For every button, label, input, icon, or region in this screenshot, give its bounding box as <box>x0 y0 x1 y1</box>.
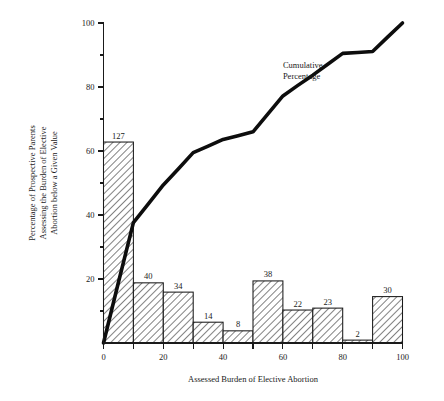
bar-count-label: 14 <box>204 311 213 321</box>
bar-count-label: 22 <box>294 299 303 309</box>
y-axis-title: Percentage of Prospective ParentsAssessi… <box>27 125 59 240</box>
y-axis-tick-label: 60 <box>86 146 95 156</box>
bar-count-label: 127 <box>112 131 125 141</box>
y-axis-title-line: Abortion below a Given Value <box>49 131 59 235</box>
x-axis-title: Assessed Burden of Elective Abortion <box>188 374 319 384</box>
bar-count-label: 2 <box>356 329 360 339</box>
annotation-line: Cumulative <box>283 60 323 70</box>
chart-figure: 1274034148382223230 20406080100020406080… <box>0 0 444 401</box>
histogram-bar <box>133 283 163 343</box>
histogram-bar <box>163 292 193 343</box>
x-axis-tick-label: 80 <box>338 352 347 362</box>
y-axis-tick-label: 100 <box>82 18 95 28</box>
x-axis-tick-label: 100 <box>396 352 409 362</box>
bar-count-label: 40 <box>144 271 153 281</box>
annotation-line: Percentage <box>283 71 321 81</box>
bar-count-label: 30 <box>383 285 392 295</box>
chart-annotations-group: CumulativePercentage <box>283 60 323 81</box>
histogram-bar <box>313 308 343 343</box>
y-axis-tick-label: 40 <box>86 210 95 220</box>
cumulative-percentage-annotation: CumulativePercentage <box>283 60 323 81</box>
bar-count-label: 34 <box>174 281 183 291</box>
histogram-bar <box>283 310 313 343</box>
bar-count-label: 8 <box>236 319 240 329</box>
bar-count-label: 38 <box>264 269 273 279</box>
x-axis-tick-label: 60 <box>279 352 288 362</box>
histogram-bar <box>223 331 253 343</box>
histogram-bar <box>373 297 403 343</box>
bar-count-label: 23 <box>324 297 333 307</box>
y-axis-title-line: Percentage of Prospective Parents <box>27 125 37 240</box>
histogram-bar <box>193 322 223 343</box>
chart-plot-area: 1274034148382223230 20406080100020406080… <box>0 0 444 401</box>
x-axis-tick-label: 40 <box>219 352 228 362</box>
histogram-bar <box>253 281 283 343</box>
x-axis-tick-label: 20 <box>159 352 168 362</box>
y-axis-tick-label: 20 <box>86 274 95 284</box>
x-axis-tick-label: 0 <box>101 352 105 362</box>
y-axis-tick-label: 80 <box>86 82 95 92</box>
y-axis-title-line: Assessing the Burden of Elective <box>38 126 48 239</box>
